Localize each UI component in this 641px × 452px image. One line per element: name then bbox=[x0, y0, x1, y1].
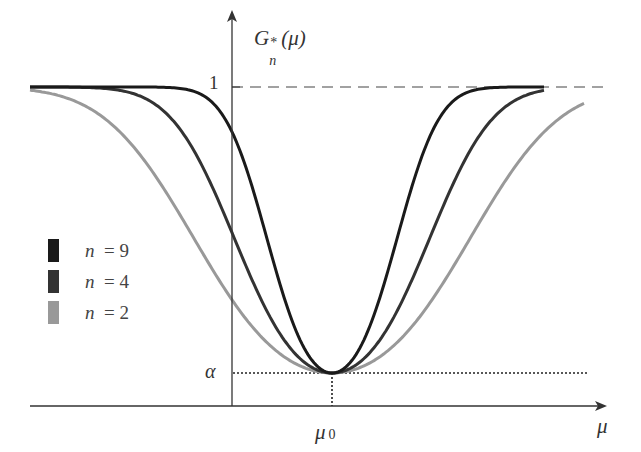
mu0-sub: 0 bbox=[329, 427, 336, 442]
tick-label-one: 1 bbox=[209, 72, 219, 94]
legend-label: n = 2 bbox=[85, 302, 129, 324]
legend-label: n = 4 bbox=[85, 271, 129, 293]
power-function-chart bbox=[0, 0, 641, 452]
legend-swatch bbox=[48, 270, 59, 293]
y-label-sub: n bbox=[269, 53, 276, 69]
legend-label: n = 9 bbox=[85, 240, 129, 262]
legend-item-n2: n = 2 bbox=[48, 297, 129, 328]
x-axis-label: μ bbox=[597, 414, 608, 439]
y-label-arg: (μ) bbox=[281, 26, 306, 50]
tick-label-mu0: μ0 bbox=[315, 420, 336, 445]
y-label-main: G bbox=[254, 26, 269, 50]
mu0-main: μ bbox=[315, 420, 326, 444]
y-axis-label: G*n(μ) bbox=[254, 26, 306, 51]
y-label-sup: * bbox=[270, 35, 277, 51]
tick-label-alpha: α bbox=[205, 360, 216, 383]
legend-swatch bbox=[48, 239, 59, 262]
legend-item-n4: n = 4 bbox=[48, 266, 129, 297]
legend-item-n9: n = 9 bbox=[48, 235, 129, 266]
power-curve-n2 bbox=[30, 90, 584, 373]
curves-group bbox=[30, 87, 584, 373]
power-curve-n4 bbox=[30, 87, 544, 373]
legend-swatch bbox=[48, 301, 59, 324]
legend: n = 9 n = 4 n = 2 bbox=[48, 235, 129, 328]
power-curve-n9 bbox=[30, 87, 544, 373]
